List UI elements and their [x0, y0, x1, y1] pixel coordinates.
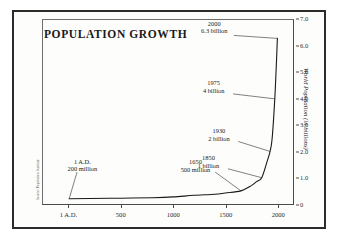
- x-tick-label: 1500: [219, 212, 232, 219]
- y-tick-mark: [296, 98, 299, 99]
- source-credit: Source: Population Institute: [36, 159, 40, 200]
- plot-area: [42, 19, 294, 205]
- x-tick-mark: [278, 205, 279, 208]
- x-tick-mark: [68, 205, 69, 208]
- annot-1850-amount: 1 billion: [198, 162, 219, 170]
- chart-canvas: [43, 20, 293, 204]
- x-tick-mark: [226, 205, 227, 208]
- annot-1ad-leader-line: [69, 172, 77, 199]
- x-tick-label: 1 A.D.: [60, 212, 77, 219]
- x-tick-mark: [121, 205, 122, 208]
- annotation-leader-lines: [69, 35, 277, 198]
- x-tick-label: 2000: [272, 212, 285, 219]
- population-curve-group: [69, 38, 277, 198]
- annot-1930-year: 1930: [208, 127, 229, 135]
- y-tick-mark: [296, 125, 299, 126]
- population-curve: [69, 38, 277, 198]
- annot-1975: 19754 billion: [203, 79, 224, 95]
- annot-1975-amount: 4 billion: [203, 87, 224, 95]
- annot-1650-leader-line: [215, 172, 241, 191]
- annot-1850-leader-line: [228, 169, 262, 178]
- y-tick-mark: [296, 178, 299, 179]
- annot-2000: 20006.3 billion: [201, 20, 227, 36]
- y-axis-title: World Population (in billions): [303, 68, 310, 158]
- x-tick-label: 1000: [167, 212, 180, 219]
- annot-1ad-year: 1 A.D.: [68, 158, 98, 166]
- annot-1975-year: 1975: [203, 79, 224, 87]
- y-tick-label: 0: [300, 202, 303, 209]
- annot-1ad-amount: 200 million: [68, 166, 98, 174]
- chart-figure: POPULATION GROWTH 01.02.03.04.05.06.07.0…: [12, 10, 326, 229]
- annot-1930-leader-line: [238, 142, 270, 152]
- x-axis: 1 A.D.500100015002000: [42, 205, 294, 223]
- y-tick-mark: [296, 45, 299, 46]
- y-tick-mark: [296, 19, 299, 20]
- x-tick-label: 500: [116, 212, 126, 219]
- annot-1850: 18501 billion: [198, 155, 219, 171]
- annot-1975-leader-line: [233, 94, 275, 99]
- annot-1850-year: 1850: [198, 155, 219, 163]
- y-tick-mark: [296, 72, 299, 73]
- annot-2000-year: 2000: [201, 20, 227, 28]
- annot-2000-amount: 6.3 billion: [201, 28, 227, 36]
- annot-1930: 19302 billion: [208, 127, 229, 143]
- y-tick-label: 6.0: [300, 42, 308, 49]
- annot-1930-amount: 2 billion: [208, 135, 229, 143]
- annot-1ad: 1 A.D.200 million: [68, 158, 98, 174]
- x-tick-mark: [173, 205, 174, 208]
- y-tick-mark: [296, 205, 299, 206]
- y-tick-label: 7.0: [300, 16, 308, 23]
- annot-2000-leader-line: [234, 35, 278, 38]
- y-tick-label: 1.0: [300, 175, 308, 182]
- y-tick-mark: [296, 151, 299, 152]
